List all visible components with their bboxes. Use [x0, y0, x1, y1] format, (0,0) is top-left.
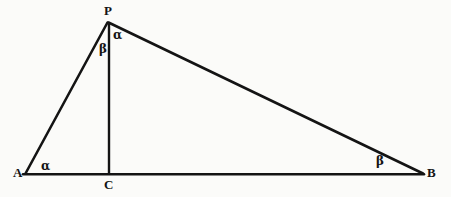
angle-label-beta-at-B: β: [376, 155, 384, 167]
angle-label-alpha-at-A: α: [41, 160, 50, 172]
vertex-label-A: A: [13, 166, 23, 179]
geometry-diagram: P A B C α β β α: [0, 0, 451, 197]
angle-label-beta-at-P: β: [99, 43, 107, 55]
segment-AP: [26, 23, 108, 174]
vertex-label-B: B: [427, 166, 436, 179]
vertex-label-C: C: [104, 178, 114, 191]
segment-PB: [109, 23, 424, 174]
angle-label-alpha-at-P: α: [113, 29, 122, 41]
vertex-label-P: P: [104, 4, 112, 17]
